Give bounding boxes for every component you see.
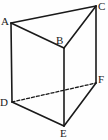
vertex-label-F: F [98,74,104,85]
prism-edge-BC [64,6,96,48]
prism-edge-group [11,6,96,126]
vertex-label-C: C [98,1,105,12]
vertex-label-D: D [0,97,8,108]
prism-edge-AC [11,6,96,23]
prism-edge-DE [12,102,64,126]
geometry-figure-canvas: A B C D E F [0,0,108,140]
vertex-label-A: A [1,16,9,27]
vertex-label-E: E [60,128,67,139]
vertex-label-B: B [56,35,63,46]
prism-edge-AD [11,23,12,102]
triangular-prism-drawing [0,0,108,140]
